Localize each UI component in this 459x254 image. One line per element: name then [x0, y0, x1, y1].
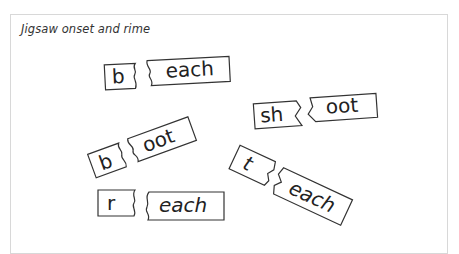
- rime-piece[interactable]: each: [159, 195, 207, 215]
- worksheet-title: Jigsaw onset and rime: [21, 22, 150, 36]
- rime-piece[interactable]: each: [165, 58, 214, 80]
- worksheet-frame: [10, 14, 448, 254]
- jigsaw-pair: b each: [103, 53, 233, 96]
- rime-piece[interactable]: oot: [325, 95, 359, 117]
- jigsaw-pair: r each: [97, 188, 227, 224]
